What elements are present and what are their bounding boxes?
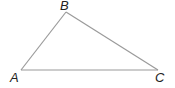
vertex-label-a: A — [9, 70, 19, 85]
edge-ab — [21, 12, 66, 70]
vertex-label-c: C — [155, 70, 165, 85]
triangle-diagram: A B C — [0, 0, 175, 88]
edge-bc — [66, 12, 158, 70]
vertex-label-b: B — [60, 0, 69, 13]
